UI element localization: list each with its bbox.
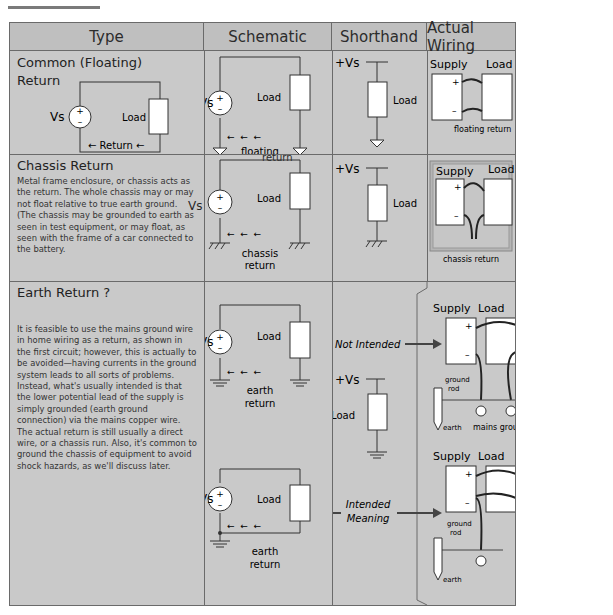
earth-label: earth [443, 576, 462, 584]
load-label: Load [257, 494, 281, 505]
svg-text:+: + [216, 93, 224, 103]
type-diagram-common: + – Vs Load ← Return ← [10, 52, 204, 154]
plus-sign: + [465, 321, 473, 331]
return-label-2: return [250, 559, 281, 570]
return-label: earth [252, 546, 279, 557]
chassis-description: Metal frame enclosure, or chassis acts a… [17, 176, 197, 256]
source-label: Vs [205, 492, 213, 506]
source-label: Vs [50, 110, 64, 124]
svg-text:+: + [216, 192, 224, 202]
return-label-2: return [245, 260, 276, 271]
svg-text:–: – [218, 104, 223, 114]
supply-label: +Vs [335, 162, 360, 176]
svg-text:← ← ←: ← ← ← [227, 367, 262, 377]
return-label: chassis [242, 248, 278, 259]
circuit-symbols-table: Type Schematic Shorthand Actual Wiring C… [9, 22, 516, 606]
svg-text:← ← ←: ← ← ← [227, 521, 262, 531]
svg-text:← ← ←: ← ← ← [227, 229, 262, 239]
svg-text:+: + [216, 332, 224, 342]
return-label: floating return [454, 125, 511, 134]
plus-sign: + [465, 469, 473, 479]
source-label: Vs [188, 199, 202, 213]
load-label: Load [257, 193, 281, 204]
load-label: Load [257, 92, 281, 103]
schematic-earth-bottom: + – Vs Load ← ← ← earth return [205, 453, 332, 605]
plus-sign: + [452, 77, 460, 87]
svg-text:–: – [78, 117, 83, 127]
shorthand-and-wiring-earth: Not Intended +Vs Load Intended Meaning S… [333, 282, 515, 605]
title-underline [8, 6, 100, 9]
schematic-earth-top: + – Vs Load ← ← ← earth return [205, 282, 332, 442]
mains-ground-label: mains ground [473, 423, 515, 432]
supply-label: +Vs [335, 373, 360, 387]
source-label: Vs [205, 335, 213, 349]
load-label: Load [393, 198, 417, 209]
load-label: Load [478, 450, 504, 463]
ground-rod-label-2: rod [450, 529, 461, 537]
row-title-chassis: Chassis Return [17, 157, 113, 175]
earth-description: It is feasible to use the mains ground w… [17, 324, 197, 472]
minus-sign: – [454, 211, 459, 221]
header-schematic: Schematic [204, 23, 332, 51]
load-label: Load [486, 58, 512, 71]
header-shorthand: Shorthand [332, 23, 427, 51]
svg-text:–: – [218, 203, 223, 213]
return-label: chassis return [443, 255, 499, 264]
return-label: earth [247, 385, 274, 396]
not-intended-label: Not Intended [335, 339, 401, 350]
source-label: Vs [205, 96, 213, 110]
ground-rod-label: ground [445, 376, 470, 384]
svg-text:–: – [218, 500, 223, 510]
return-label: ← Return ← [88, 140, 144, 151]
supply-label: Supply [433, 302, 471, 315]
return-label-2: return [245, 398, 276, 409]
minus-sign: – [465, 350, 470, 360]
svg-text:–: – [218, 343, 223, 353]
schematic-chassis: + – Load ← ← ← chassis return [205, 155, 332, 281]
meaning-label: Meaning [347, 513, 390, 524]
wiring-chassis: Supply Load + – chassis return [428, 155, 515, 281]
svg-text:+: + [216, 489, 224, 499]
svg-text:← ← ←: ← ← ← [227, 132, 262, 142]
svg-text:+: + [76, 106, 84, 116]
load-label: Load [122, 112, 146, 123]
minus-sign: – [452, 106, 457, 116]
load-label: Load [333, 410, 355, 421]
supply-label: Supply [436, 165, 474, 178]
supply-label: Supply [430, 58, 468, 71]
supply-label: Supply [433, 450, 471, 463]
wiring-floating: Supply Load + – floating return [428, 52, 515, 154]
header-type: Type [10, 23, 204, 51]
ground-rod-label-2: rod [448, 385, 459, 393]
schematic-floating: + – Vs Load ← ← ← floating [205, 52, 332, 154]
header-actual-wiring: Actual Wiring [427, 23, 515, 51]
load-label: Load [478, 302, 504, 315]
load-label: Load [393, 95, 417, 106]
shorthand-floating: +Vs Load [333, 52, 427, 154]
minus-sign: – [465, 498, 470, 508]
earth-label: earth [443, 424, 462, 432]
ground-rod-label: ground [447, 520, 472, 528]
row-title-earth: Earth Return ? [17, 284, 110, 302]
plus-sign: + [454, 182, 462, 192]
load-label: Load [257, 331, 281, 342]
supply-label: +Vs [335, 56, 360, 70]
intended-label: Intended [346, 499, 391, 510]
load-label: Load [488, 163, 514, 176]
shorthand-chassis: +Vs Load [333, 155, 427, 281]
